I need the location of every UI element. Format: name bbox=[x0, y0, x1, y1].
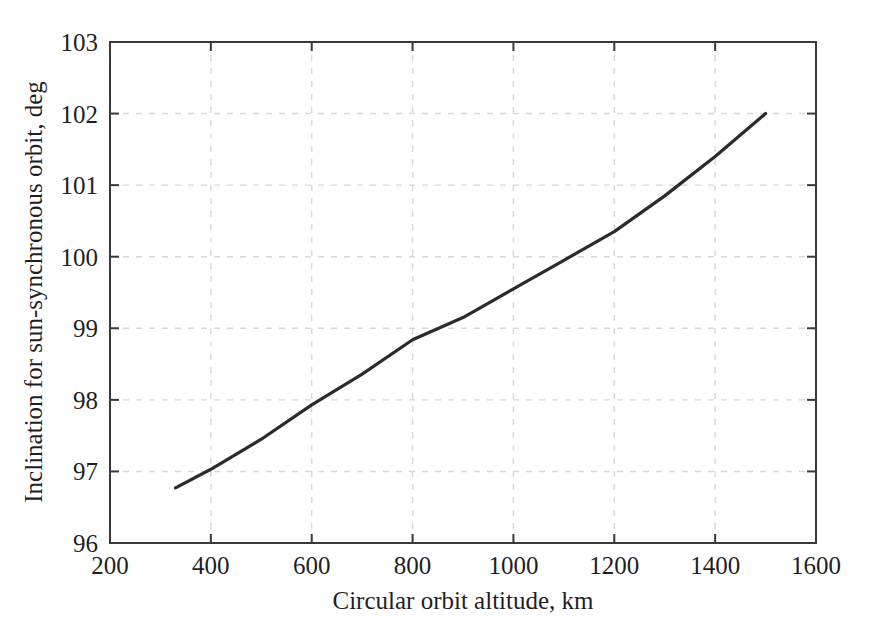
y-tick-label-102: 102 bbox=[61, 101, 99, 128]
y-tick-label-97: 97 bbox=[73, 458, 98, 485]
x-axis-title: Circular orbit altitude, km bbox=[332, 587, 594, 614]
x-tick-labels: 2004006008001000120014001600 bbox=[91, 552, 841, 579]
y-axis-title: Inclination for sun-synchronous orbit, d… bbox=[20, 81, 47, 503]
line-chart: 2004006008001000120014001600 96979899100… bbox=[0, 0, 873, 635]
x-tick-label-1000: 1000 bbox=[488, 552, 538, 579]
y-tick-label-96: 96 bbox=[73, 530, 98, 557]
figure-page: 2004006008001000120014001600 96979899100… bbox=[0, 0, 873, 635]
x-tick-label-1400: 1400 bbox=[690, 552, 740, 579]
y-tick-label-103: 103 bbox=[61, 29, 99, 56]
y-tick-label-99: 99 bbox=[73, 315, 98, 342]
y-tick-label-98: 98 bbox=[73, 387, 98, 414]
x-tick-label-600: 600 bbox=[293, 552, 331, 579]
x-tick-label-1600: 1600 bbox=[791, 552, 841, 579]
x-tick-label-1200: 1200 bbox=[589, 552, 639, 579]
x-tick-label-800: 800 bbox=[394, 552, 432, 579]
y-tick-label-100: 100 bbox=[61, 244, 99, 271]
y-tick-labels: 96979899100101102103 bbox=[61, 29, 99, 557]
y-tick-label-101: 101 bbox=[61, 172, 99, 199]
x-tick-label-400: 400 bbox=[192, 552, 230, 579]
chart-figure: 2004006008001000120014001600 96979899100… bbox=[0, 0, 873, 635]
